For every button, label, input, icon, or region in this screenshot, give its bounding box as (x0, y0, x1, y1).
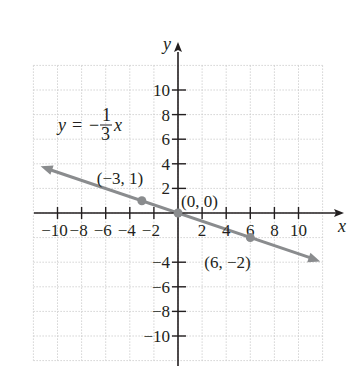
data-point (246, 233, 255, 242)
y-tick-label: 10 (153, 81, 170, 100)
x-tick-label: −8 (70, 221, 88, 240)
x-tick-label: 10 (290, 221, 307, 240)
chart-canvas: −10−8−6−4−2246810108642−4−6−8−10 (−3, 1)… (0, 0, 360, 389)
equation-denominator: 3 (101, 124, 110, 144)
x-tick-label: −2 (142, 221, 160, 240)
point-label: (6, −2) (204, 253, 250, 272)
x-axis-label: x (337, 216, 346, 236)
equation-minus: − (89, 115, 99, 135)
y-axis-arrow-icon (174, 42, 182, 52)
x-tick-label: −4 (118, 221, 137, 240)
equation-var: x (113, 115, 122, 135)
point-label: (−3, 1) (97, 169, 143, 188)
x-tick-label: 4 (222, 221, 231, 240)
x-tick-label: −10 (41, 221, 68, 240)
y-tick-label: 4 (162, 155, 171, 174)
point-label: (0, 0) (181, 192, 218, 211)
equation-numerator: 1 (102, 105, 111, 125)
y-tick-label: −4 (152, 253, 171, 272)
equation-lhs: y (56, 115, 66, 135)
equation-label: y = − 1 3 x (56, 105, 122, 144)
y-tick-label: −6 (152, 278, 170, 297)
y-tick-label: −8 (152, 302, 170, 321)
line-arrow-icon (41, 165, 54, 174)
y-tick-label: 8 (162, 106, 171, 125)
line-arrow-icon (307, 253, 320, 262)
x-tick-label: 2 (198, 221, 207, 240)
x-tick-label: 8 (270, 221, 279, 240)
y-axis-label: y (161, 34, 171, 54)
y-tick-label: 2 (162, 179, 171, 198)
y-tick-label: −10 (143, 327, 170, 346)
equation-equals: = (72, 115, 82, 135)
x-tick-label: −6 (94, 221, 112, 240)
data-point (137, 196, 146, 205)
y-tick-label: 6 (162, 130, 171, 149)
